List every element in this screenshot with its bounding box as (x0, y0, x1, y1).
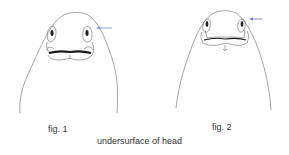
fig1-mouth (49, 51, 91, 53)
fig2-mouth (204, 38, 246, 40)
fig1-head-drawing (20, 12, 118, 113)
fig1-label: fig. 1 (48, 125, 68, 134)
figure-caption: undersurface of head (97, 137, 182, 146)
fig2-head-drawing (176, 11, 271, 110)
fig2-label: fig. 2 (212, 123, 232, 132)
fig2-arrow-icon (249, 18, 262, 21)
fig2-body-outline (176, 11, 271, 110)
diagram-canvas (0, 0, 289, 155)
fig1-body-outline (20, 12, 118, 113)
